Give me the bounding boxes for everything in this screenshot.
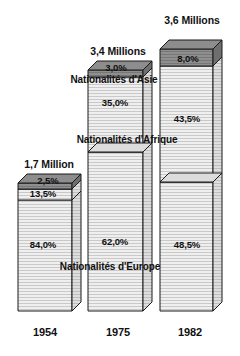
bar-total-1975: 3,4 Millions bbox=[90, 46, 145, 57]
axis-year-1954: 1954 bbox=[33, 327, 57, 338]
pct-1975-afrique: 35,0% bbox=[102, 98, 128, 108]
axis-year-1982: 1982 bbox=[178, 327, 202, 338]
bar-1975-segment-europe bbox=[88, 143, 152, 311]
pct-1975-europe: 62,0% bbox=[102, 237, 128, 247]
pct-1982-asie: 8,0% bbox=[177, 54, 198, 64]
bar-total-1982: 3,6 Millions bbox=[164, 15, 219, 26]
pct-1975-asie: 3,0% bbox=[105, 63, 126, 73]
category-label-asie: Nationalités d'Asie bbox=[70, 75, 157, 85]
bar-1954-segment-europe bbox=[18, 191, 81, 311]
pct-1954-europe: 84,0% bbox=[30, 240, 56, 250]
pct-1982-afrique: 43,5% bbox=[174, 114, 200, 124]
pct-1954-afrique: 13,5% bbox=[30, 189, 56, 199]
stacked-bar-chart: 1,7 Million 3,4 Millions 3,6 Millions 2,… bbox=[0, 0, 240, 356]
pct-1954-asie: 2,5% bbox=[37, 176, 58, 186]
bar-total-1954: 1,7 Million bbox=[24, 159, 74, 170]
category-label-afrique: Nationalités d'Afrique bbox=[77, 135, 178, 145]
bar-1982 bbox=[160, 40, 222, 311]
axis-year-1975: 1975 bbox=[106, 327, 130, 338]
category-label-europe: Nationalités d'Europe bbox=[60, 262, 160, 272]
pct-1982-europe: 48,5% bbox=[174, 240, 200, 250]
